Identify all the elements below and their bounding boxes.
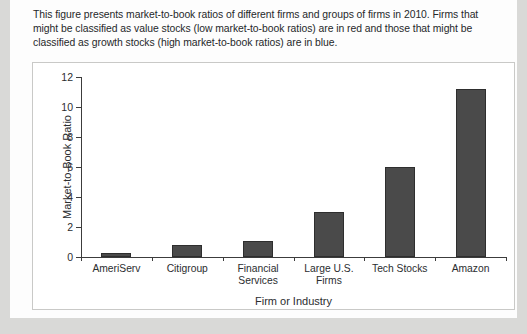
y-tick-label: 0 [67, 251, 73, 263]
x-tick-label-line: Services [223, 275, 294, 287]
x-tick-label-line: AmeriServ [81, 263, 152, 275]
x-tick-label-line: Firms [294, 275, 365, 287]
x-tick [506, 257, 507, 261]
x-tick-label: Tech Stocks [364, 263, 435, 275]
x-tick-label: Citigroup [152, 263, 223, 275]
y-tick-label: 8 [67, 131, 73, 143]
figure-caption: This figure presents market-to-book rati… [33, 8, 503, 51]
x-tick [435, 257, 436, 261]
x-tick-label: Amazon [435, 263, 506, 275]
y-tick-label: 6 [67, 161, 73, 173]
bar [243, 241, 273, 258]
x-tick-label: FinancialServices [223, 263, 294, 288]
x-tick [223, 257, 224, 261]
x-tick [294, 257, 295, 261]
plot-area: Market-to-Book Ratio 024681012 AmeriServ… [81, 77, 506, 270]
y-tick-label: 12 [61, 71, 73, 83]
x-tick-label: AmeriServ [81, 263, 152, 275]
y-tick-label: 4 [67, 191, 73, 203]
x-tick [364, 257, 365, 261]
bar [385, 167, 415, 257]
bar [456, 89, 486, 257]
chart-panel: Market-to-Book Ratio 024681012 AmeriServ… [32, 62, 515, 310]
figure-page: This figure presents market-to-book rati… [0, 0, 527, 334]
bar [314, 212, 344, 257]
x-tick-label: Large U.S.Firms [294, 263, 365, 288]
x-tick-label-line: Amazon [435, 263, 506, 275]
x-tick [81, 257, 82, 261]
y-tick-label: 2 [67, 221, 73, 233]
page-sheet: This figure presents market-to-book rati… [10, 0, 517, 318]
x-tick-label-line: Tech Stocks [364, 263, 435, 275]
x-axis-label: Firm or Industry [81, 295, 506, 307]
bar [172, 245, 202, 257]
x-tick [152, 257, 153, 261]
x-tick-label-line: Citigroup [152, 263, 223, 275]
x-tick-label-line: Large U.S. [294, 263, 365, 275]
x-tick-label-line: Financial [223, 263, 294, 275]
y-tick-label: 10 [61, 101, 73, 113]
bar-series [81, 77, 506, 257]
bar [101, 253, 131, 258]
